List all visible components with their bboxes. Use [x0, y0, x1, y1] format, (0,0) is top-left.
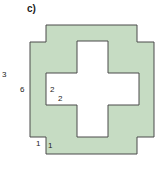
- dimension-label-1b: 1: [48, 142, 52, 150]
- outer-shape: [30, 25, 154, 154]
- dimension-label-1a: 1: [36, 140, 40, 148]
- dimension-label-3: 3: [2, 71, 6, 79]
- dimension-label-2b: 2: [58, 95, 62, 103]
- dimension-label-6: 6: [20, 86, 24, 94]
- dimension-label-2a: 2: [50, 86, 54, 94]
